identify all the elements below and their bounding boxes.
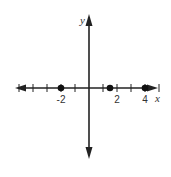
tick-label: 4 [142,94,148,105]
plotted-point [142,85,149,92]
tick-labels: -224 [57,94,149,105]
tick-label: -2 [57,94,66,105]
y-axis-down-arrow-icon [86,147,93,159]
plotted-point [107,85,114,92]
coordinate-plane-figure: -224 x y [0,0,171,177]
axes [15,14,158,159]
x-axis-left-arrow-icon [15,85,26,92]
y-axis-up-arrow-icon [86,14,93,26]
y-axis-label: y [79,14,85,26]
x-axis-label: x [154,92,160,104]
plotted-point [58,85,65,92]
x-axis-right-arrow-icon [147,85,158,92]
tick-label: 2 [114,94,120,105]
coordinate-plane: -224 x y [0,0,171,177]
